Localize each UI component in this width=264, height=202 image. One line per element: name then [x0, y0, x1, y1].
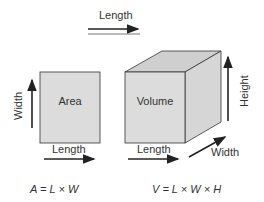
volume-label: Volume	[137, 95, 174, 107]
area-label: Area	[58, 95, 82, 107]
area-square	[40, 72, 100, 143]
area-volume-diagram: Length Area Width Length Volume Height L…	[0, 0, 264, 202]
top-length-label: Length	[99, 9, 133, 21]
height-label: Height	[238, 75, 250, 107]
volume-length-label: Length	[137, 143, 171, 155]
area-formula: A = L × W	[29, 183, 80, 195]
volume-formula: V = L × W × H	[152, 183, 221, 195]
depth-width-label: Width	[211, 146, 239, 158]
area-length-label: Length	[52, 143, 86, 155]
width-label: Width	[12, 92, 24, 120]
cube-front-face	[125, 72, 185, 143]
